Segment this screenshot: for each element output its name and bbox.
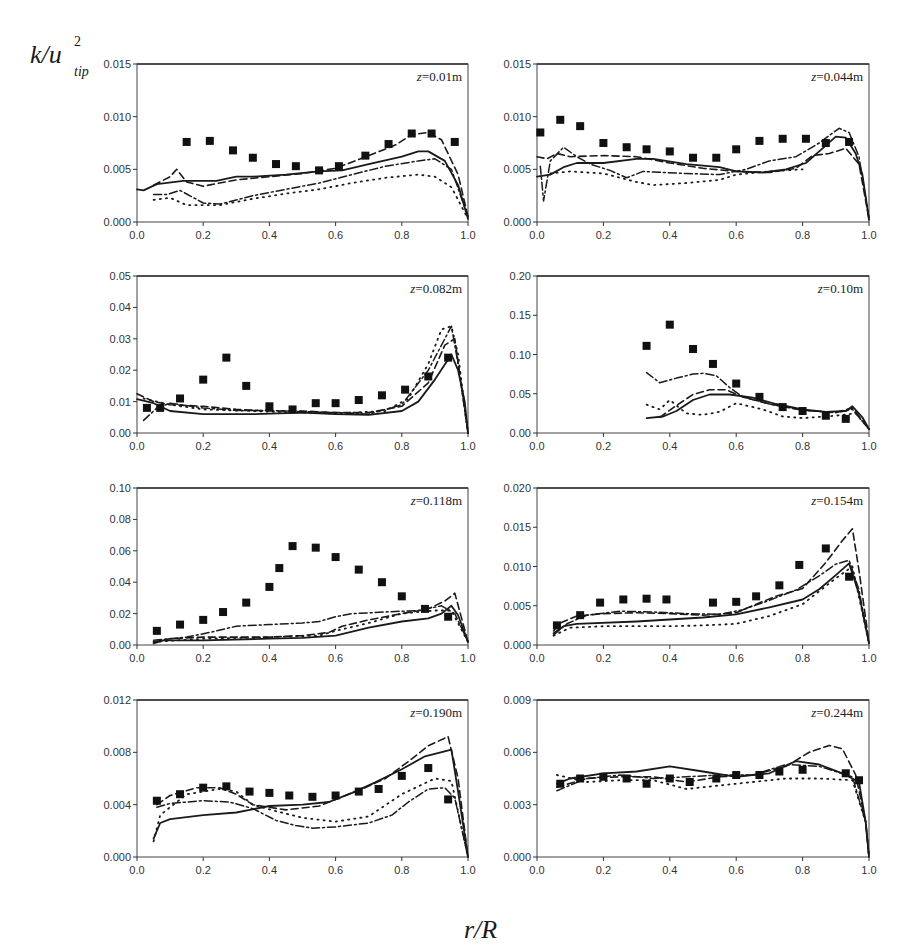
experiment-marker [556, 780, 564, 788]
experiment-marker [842, 415, 850, 423]
panel-0.01m: 0.0000.0050.0100.0150.00.20.40.60.81.0z=… [103, 58, 475, 241]
y-tick-label: 0.05 [110, 270, 131, 282]
experiment-marker [355, 566, 363, 574]
experiment-marker [576, 122, 584, 130]
x-tick-label: 0.4 [262, 440, 277, 452]
experiment-marker [332, 399, 340, 407]
panel-title: z=0.10m [817, 281, 863, 296]
panel-title: z=0.190m [409, 705, 462, 720]
experiment-marker [424, 764, 432, 772]
plot-frame [137, 488, 468, 645]
x-tick-label: 0.6 [328, 229, 343, 241]
experiment-marker [153, 797, 161, 805]
series-dash-dot [540, 128, 869, 218]
experiment-marker [246, 788, 254, 796]
y-tick-label: 0.003 [503, 799, 531, 811]
experiment-marker [444, 795, 452, 803]
experiment-marker [398, 592, 406, 600]
x-tick-label: 0.8 [795, 229, 810, 241]
x-tick-label: 0.4 [262, 229, 277, 241]
experiment-marker [775, 768, 783, 776]
experiment-marker [755, 771, 763, 779]
experiment-marker [822, 139, 830, 147]
experiment-marker [686, 778, 694, 786]
experiment-marker [222, 782, 230, 790]
experiment-marker [576, 775, 584, 783]
experiment-marker [822, 544, 830, 552]
experiment-marker [401, 386, 409, 394]
experiment-marker [242, 382, 250, 390]
experiment-marker [285, 792, 293, 800]
experiment-marker [712, 154, 720, 162]
x-tick-label: 0.2 [596, 229, 611, 241]
y-tick-label: 0.10 [110, 482, 131, 494]
experiment-marker [153, 627, 161, 635]
x-tick-label: 1.0 [861, 440, 876, 452]
experiment-marker [229, 146, 237, 154]
panel-0.082m: 0.000.010.020.030.040.050.00.20.40.60.81… [110, 270, 476, 452]
x-tick-label: 0.8 [394, 864, 409, 876]
experiment-marker [199, 784, 207, 792]
experiment-marker [643, 595, 651, 603]
series-dash-dot [154, 159, 468, 217]
y-tick-label: 0.008 [103, 746, 131, 758]
panel-0.190m: 0.0000.0040.0080.0120.00.20.40.60.81.0z=… [103, 694, 475, 876]
experiment-marker [689, 154, 697, 162]
experiment-marker [375, 785, 383, 793]
y-tick-label: 0.010 [103, 111, 131, 123]
y-tick-label: 0.000 [103, 851, 131, 863]
experiment-marker [312, 544, 320, 552]
experiment-marker [361, 152, 369, 160]
y-tick-label: 0.20 [510, 270, 531, 282]
panel-0.244m: 0.0000.0030.0060.0090.00.20.40.60.81.0z=… [503, 694, 876, 876]
series-dotted [144, 326, 468, 433]
y-tick-label: 0.000 [503, 639, 531, 651]
series-solid [537, 137, 869, 220]
x-tick-label: 0.4 [662, 440, 677, 452]
x-tick-label: 0.4 [662, 864, 677, 876]
y-tick-label: 0.03 [110, 333, 131, 345]
panel-0.118m: 0.000.020.040.060.080.100.00.20.40.60.81… [110, 482, 476, 664]
x-tick-label: 0.8 [795, 440, 810, 452]
x-tick-label: 0.4 [262, 864, 277, 876]
y-tick-label: 0.000 [503, 216, 531, 228]
experiment-marker [176, 621, 184, 629]
experiment-marker [855, 776, 863, 784]
experiment-marker [775, 581, 783, 589]
y-tick-label: 0.010 [503, 111, 531, 123]
x-tick-label: 0.8 [795, 652, 810, 664]
x-tick-label: 0.2 [196, 652, 211, 664]
y-label-superscript: 2 [74, 34, 81, 50]
experiment-marker [444, 613, 452, 621]
panel-0.154m: 0.0000.0050.0100.0150.0200.00.20.40.60.8… [503, 482, 876, 664]
panel-0.10m: 0.000.050.100.150.200.00.20.40.60.81.0z=… [510, 270, 877, 452]
series-dashed [557, 745, 869, 857]
experiment-marker [779, 403, 787, 411]
experiment-marker [556, 116, 564, 124]
y-tick-label: 0.015 [103, 58, 131, 70]
experiment-marker [712, 775, 720, 783]
series-dotted [647, 400, 869, 429]
y-label-text: k/u [30, 40, 62, 69]
experiment-marker [802, 135, 810, 143]
experiment-marker [355, 396, 363, 404]
experiment-marker [709, 360, 717, 368]
x-tick-label: 0.2 [596, 652, 611, 664]
panel-title: z=0.154m [810, 493, 863, 508]
series-dashed [154, 133, 468, 217]
y-tick-label: 0.015 [503, 58, 531, 70]
experiment-marker [199, 376, 207, 384]
x-tick-label: 1.0 [460, 440, 475, 452]
experiment-marker [292, 162, 300, 170]
panel-title: z=0.01m [416, 69, 462, 84]
experiment-marker [176, 394, 184, 402]
experiment-marker [842, 769, 850, 777]
experiment-marker [199, 616, 207, 624]
experiment-marker [312, 399, 320, 407]
panel-title: z=0.244m [810, 705, 863, 720]
y-tick-label: 0.05 [510, 388, 531, 400]
plot-frame [137, 276, 468, 433]
experiment-marker [599, 139, 607, 147]
experiment-marker [845, 138, 853, 146]
y-axis-main-label: k/u 2 tip [30, 40, 62, 70]
